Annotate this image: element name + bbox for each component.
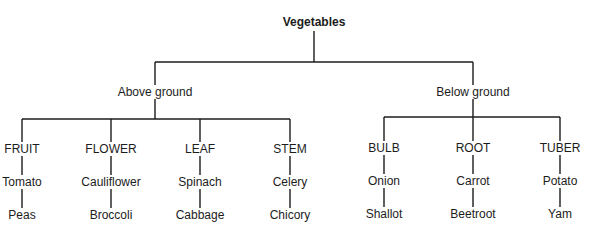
node-celery: Celery	[272, 175, 309, 189]
node-leaf: LEAF	[184, 142, 216, 156]
node-potato: Potato	[542, 174, 579, 188]
root-node-vegetables: Vegetables	[282, 15, 347, 29]
node-bulb: BULB	[367, 141, 400, 155]
node-beetroot: Beetroot	[449, 207, 496, 221]
node-below-ground: Below ground	[435, 85, 510, 99]
node-shallot: Shallot	[365, 207, 404, 221]
node-tuber: TUBER	[539, 141, 582, 155]
node-yam: Yam	[547, 207, 573, 221]
node-peas: Peas	[7, 208, 36, 222]
node-cauliflower: Cauliflower	[80, 175, 141, 189]
node-tomato: Tomato	[1, 175, 42, 189]
node-broccoli: Broccoli	[89, 208, 134, 222]
node-onion: Onion	[367, 174, 401, 188]
node-stem: STEM	[272, 142, 307, 156]
node-cabbage: Cabbage	[175, 208, 226, 222]
node-spinach: Spinach	[177, 175, 222, 189]
connector-lines	[0, 0, 593, 234]
node-chicory: Chicory	[269, 208, 312, 222]
node-above-ground: Above ground	[117, 85, 194, 99]
node-flower: FLOWER	[84, 142, 137, 156]
node-fruit: FRUIT	[3, 142, 40, 156]
node-root: ROOT	[455, 141, 492, 155]
node-carrot: Carrot	[455, 174, 490, 188]
